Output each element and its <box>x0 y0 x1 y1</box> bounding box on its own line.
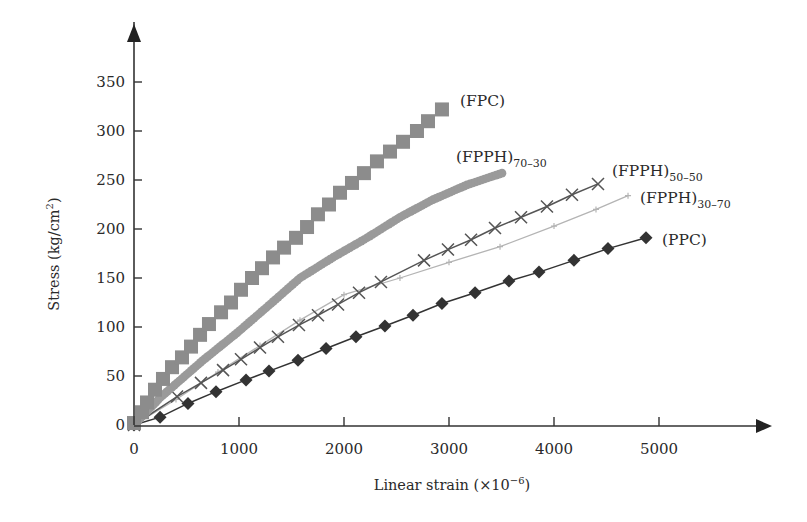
series-label-fpph-50-50: (FPPH)50–50 <box>612 162 703 184</box>
diamond-marker-icon <box>210 385 223 398</box>
stress-strain-chart: 050100150200250300350 010002000300040005… <box>0 0 807 522</box>
x-marker-icon <box>332 298 344 310</box>
y-tick-label: 300 <box>96 122 125 140</box>
y-tick-label: 250 <box>96 171 125 189</box>
y-axis-arrow-icon <box>127 24 141 42</box>
plus-marker-icon <box>593 206 599 212</box>
square-marker-icon <box>345 176 359 190</box>
x-marker-icon <box>515 211 527 223</box>
x-axis-arrow-icon <box>756 419 772 433</box>
x-marker-icon <box>489 222 501 234</box>
x-tick-label: 4000 <box>535 440 573 458</box>
x-marker-icon <box>353 287 365 299</box>
square-marker-icon <box>277 241 291 255</box>
square-marker-icon <box>140 395 154 409</box>
diamond-marker-icon <box>601 242 614 255</box>
series-fpph-50-50 <box>128 178 604 431</box>
series-label-ppc: (PPC) <box>662 231 707 249</box>
x-tick-label: 3000 <box>430 440 468 458</box>
diamond-marker-icon <box>469 286 482 299</box>
y-tick-label: 350 <box>96 73 125 91</box>
square-marker-icon <box>396 135 410 149</box>
circle-marker-icon <box>498 169 507 178</box>
square-marker-icon <box>435 102 449 116</box>
diamond-marker-icon <box>435 297 448 310</box>
diamond-marker-icon <box>349 330 362 343</box>
x-marker-icon <box>566 189 578 201</box>
x-tick-label: 1000 <box>220 440 258 458</box>
plus-marker-icon <box>625 193 631 199</box>
x-tick-label: 2000 <box>325 440 363 458</box>
diamond-marker-icon <box>502 274 515 287</box>
series-label-fpc: (FPC) <box>460 92 505 110</box>
x-tick-label: 5000 <box>640 440 678 458</box>
x-marker-icon <box>442 244 454 256</box>
x-marker-icon <box>195 377 207 389</box>
diamond-marker-icon <box>567 254 580 267</box>
diamond-marker-icon <box>292 354 305 367</box>
square-marker-icon <box>383 145 397 159</box>
square-marker-icon <box>357 166 371 180</box>
square-marker-icon <box>333 186 347 200</box>
square-marker-icon <box>202 317 216 331</box>
x-marker-icon <box>541 200 553 212</box>
plot-series <box>127 102 652 431</box>
diamond-marker-icon <box>320 342 333 355</box>
x-axis-title: Linear strain (×10−6) <box>374 475 530 493</box>
x-tick-label: 0 <box>129 440 139 458</box>
plus-marker-icon <box>446 259 452 265</box>
diamond-marker-icon <box>639 231 652 244</box>
series-label-fpph-70-30: (FPPH)70–30 <box>456 148 547 170</box>
x-marker-icon <box>592 178 604 190</box>
y-tick-label: 150 <box>96 269 125 287</box>
square-marker-icon <box>224 296 238 310</box>
x-marker-icon <box>465 234 477 246</box>
x-marker-icon <box>418 254 430 266</box>
y-ticks: 050100150200250300350 <box>96 73 142 434</box>
x-marker-icon <box>235 353 247 365</box>
plus-marker-icon <box>341 292 347 298</box>
diamond-marker-icon <box>240 373 253 386</box>
x-ticks: 010002000300040005000 <box>129 417 678 458</box>
y-tick-label: 100 <box>96 318 125 336</box>
plus-marker-icon <box>497 244 503 250</box>
series-label-fpph-30-70: (FPPH)30–70 <box>640 189 731 211</box>
plus-marker-icon <box>551 223 557 229</box>
x-marker-icon <box>312 309 324 321</box>
y-axis-title: Stress (kg/cm2) <box>44 197 62 310</box>
square-marker-icon <box>370 154 384 168</box>
square-marker-icon <box>421 114 435 128</box>
diamond-marker-icon <box>181 397 194 410</box>
square-marker-icon <box>300 220 314 234</box>
y-tick-label: 50 <box>106 367 125 385</box>
x-marker-icon <box>217 364 229 376</box>
diamond-marker-icon <box>378 320 391 333</box>
plus-marker-icon <box>397 275 403 281</box>
diamond-marker-icon <box>532 266 545 279</box>
diamond-marker-icon <box>263 365 276 378</box>
y-tick-label: 0 <box>115 416 125 434</box>
diamond-marker-icon <box>406 309 419 322</box>
y-tick-label: 200 <box>96 220 125 238</box>
